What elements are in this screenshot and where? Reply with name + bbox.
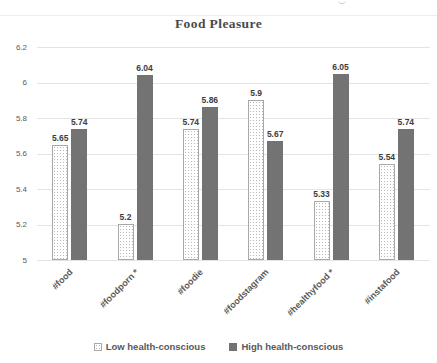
legend-label: Low health-conscious [106, 341, 206, 352]
y-axis-tick-label: 5.4 [0, 185, 27, 194]
cropped-text-artifact [338, 0, 346, 4]
bar-high-healthyfood [333, 74, 349, 260]
y-axis-tick-label: 5.8 [0, 114, 27, 123]
bar-value-label: 5.74 [386, 117, 426, 127]
bar-high-foodie [202, 107, 218, 260]
x-axis-category-text: #instafood [362, 267, 401, 306]
bar-value-label: 5.74 [59, 117, 99, 127]
x-axis-category-text: #food [50, 267, 74, 291]
legend-item: High health-conscious [229, 341, 343, 352]
bar-low-foodporn [118, 224, 134, 260]
bar-high-instafood [398, 129, 414, 260]
legend-label: High health-conscious [241, 341, 343, 352]
bar-low-instafood [379, 164, 395, 260]
gridline-6.2 [37, 47, 430, 48]
bar-value-label: 5.67 [255, 129, 295, 139]
legend-swatch-high [229, 343, 237, 351]
bar-high-foodstagram [267, 141, 283, 260]
bar-low-foodie [183, 129, 199, 260]
y-axis-tick-label: 5.2 [0, 220, 27, 229]
gridline-6 [37, 83, 430, 84]
gridline-5.2 [37, 225, 430, 226]
gridline-5.4 [37, 189, 430, 190]
x-axis-category-text: #foodie [176, 267, 206, 297]
legend: Low health-consciousHigh health-consciou… [0, 341, 437, 352]
bar-high-foodporn [137, 75, 153, 260]
legend-swatch-low [94, 343, 102, 351]
gridline-5 [37, 260, 430, 261]
food-pleasure-chart: Food Pleasure 6.265.85.65.45.255.655.74#… [0, 0, 437, 363]
bar-value-label: 6.04 [125, 63, 165, 73]
bar-value-label: 5.9 [236, 88, 276, 98]
y-axis-tick-label: 6.2 [0, 43, 27, 52]
bar-low-food [52, 145, 68, 260]
bar-high-food [71, 129, 87, 260]
legend-item: Low health-conscious [94, 341, 206, 352]
bar-value-label: 5.86 [190, 95, 230, 105]
bar-low-healthyfood [314, 201, 330, 260]
bar-value-label: 6.05 [321, 62, 361, 72]
y-axis-tick-label: 5 [0, 256, 27, 265]
x-axis-category-text: #foodstagram [222, 267, 271, 316]
bar-low-foodstagram [248, 100, 264, 260]
chart-title: Food Pleasure [0, 16, 437, 32]
y-axis-tick-label: 5.6 [0, 149, 27, 158]
y-axis-tick-label: 6 [0, 78, 27, 87]
x-axis-category-text: #foodporn * [97, 267, 140, 310]
x-axis-category-text: #healthyfood * [285, 267, 336, 318]
